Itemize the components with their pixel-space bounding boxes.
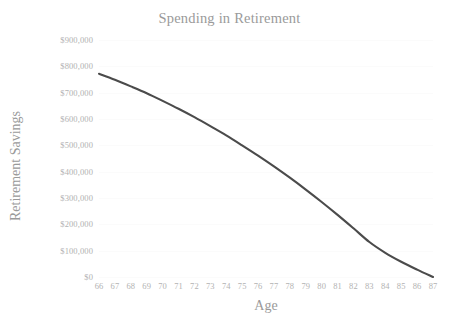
chart-title: Spending in Retirement [0, 10, 459, 27]
x-axis-tick-label: 66 [95, 281, 104, 291]
x-axis-tick-label: 69 [142, 281, 151, 291]
series-line-retirement-savings [99, 40, 433, 277]
y-axis-tick-label: $0 [0, 272, 93, 282]
x-axis-tick-label: 76 [254, 281, 263, 291]
x-axis-tick-label: 67 [111, 281, 120, 291]
x-axis-tick-label: 74 [222, 281, 231, 291]
x-axis-tick-label: 84 [381, 281, 390, 291]
x-axis-tick-label: 70 [158, 281, 167, 291]
spending-in-retirement-chart: Spending in Retirement Retirement Saving… [0, 0, 459, 333]
gridline [99, 277, 433, 278]
y-axis-tick-label: $200,000 [0, 219, 93, 229]
x-axis-title: Age [99, 298, 433, 314]
x-axis-tick-labels: 6667686970717273747576777879808182838485… [99, 281, 433, 295]
x-axis-tick-label: 72 [190, 281, 199, 291]
y-axis-tick-label: $100,000 [0, 246, 93, 256]
y-axis-tick-label: $500,000 [0, 140, 93, 150]
x-axis-tick-label: 73 [206, 281, 215, 291]
y-axis-tick-labels: $0$100,000$200,000$300,000$400,000$500,0… [0, 40, 93, 277]
x-axis-tick-label: 78 [285, 281, 294, 291]
plot-area [99, 40, 433, 277]
x-axis-tick-label: 82 [349, 281, 358, 291]
x-axis-tick-label: 85 [397, 281, 406, 291]
x-axis-tick-label: 83 [365, 281, 374, 291]
x-axis-tick-label: 68 [126, 281, 135, 291]
y-axis-tick-label: $300,000 [0, 193, 93, 203]
y-axis-tick-label: $400,000 [0, 167, 93, 177]
x-axis-tick-label: 80 [317, 281, 326, 291]
series-path [99, 74, 433, 277]
x-axis-tick-label: 81 [333, 281, 342, 291]
y-axis-tick-label: $700,000 [0, 88, 93, 98]
x-axis-tick-label: 77 [270, 281, 279, 291]
x-axis-tick-label: 75 [238, 281, 247, 291]
y-axis-tick-label: $600,000 [0, 114, 93, 124]
x-axis-tick-label: 86 [413, 281, 422, 291]
y-axis-tick-label: $900,000 [0, 35, 93, 45]
x-axis-tick-label: 71 [174, 281, 183, 291]
x-axis-tick-label: 79 [301, 281, 310, 291]
y-axis-tick-label: $800,000 [0, 61, 93, 71]
x-axis-tick-label: 87 [429, 281, 438, 291]
